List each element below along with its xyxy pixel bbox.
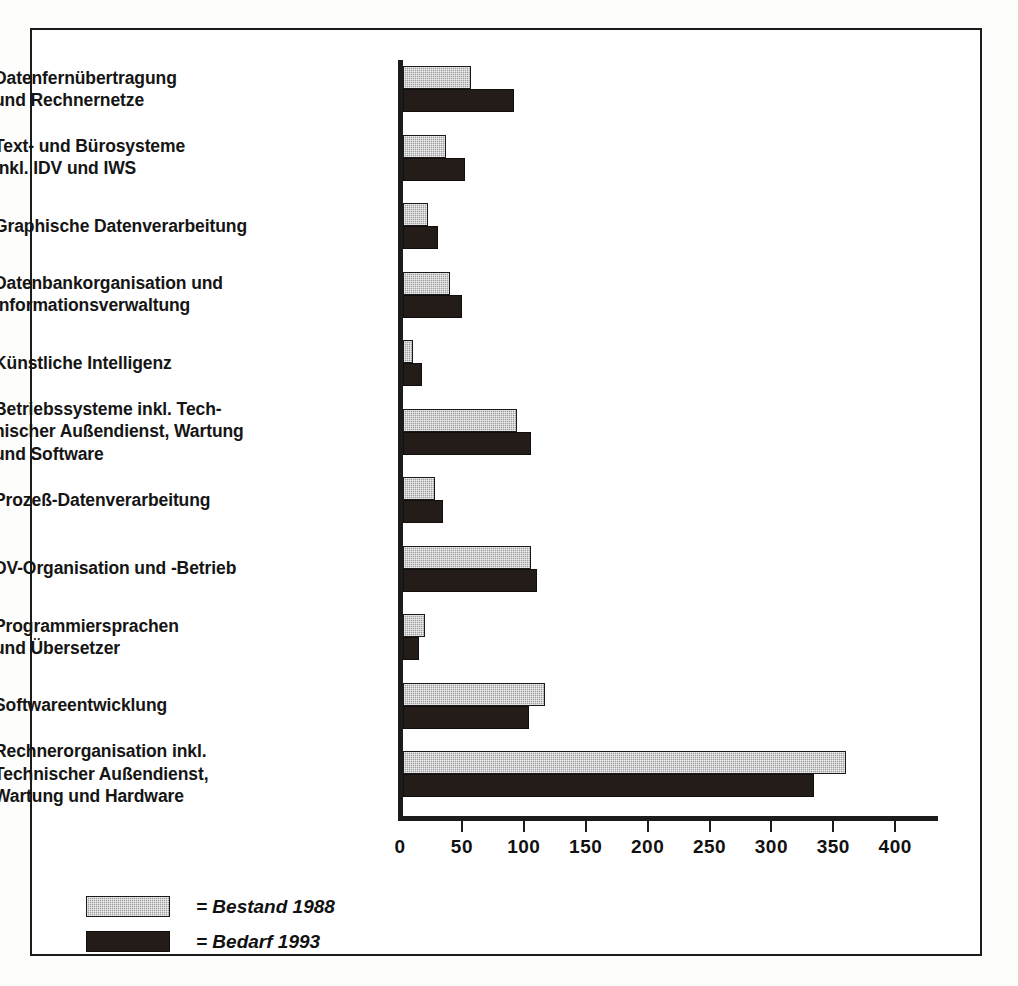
bar-bedarf-1993 xyxy=(403,706,529,729)
legend-label-bedarf: = Bedarf 1993 xyxy=(196,931,320,953)
x-axis-line xyxy=(398,816,938,821)
category-label-line: Programmiersprachen xyxy=(0,615,324,637)
bar-group xyxy=(403,751,943,797)
x-axis-tick xyxy=(585,821,587,832)
x-axis-tick xyxy=(832,821,834,832)
chart-legend: = Bestand 1988 = Bedarf 1993 xyxy=(86,892,335,962)
bar-bestand-1988 xyxy=(403,66,471,89)
bar-bestand-1988 xyxy=(403,409,517,432)
bar-bedarf-1993 xyxy=(403,637,419,660)
legend-swatch-bestand-icon xyxy=(86,896,170,917)
chart-category-row: Datenbankorganisation undInformationsver… xyxy=(32,272,984,320)
legend-item-bestand: = Bestand 1988 xyxy=(86,892,335,921)
category-label-line: Technischer Außendienst, xyxy=(0,763,324,785)
chart-category-row: Rechnerorganisation inkl.Technischer Auß… xyxy=(32,751,984,799)
x-axis-tick-label: 350 xyxy=(817,836,850,858)
bar-bedarf-1993 xyxy=(403,432,531,455)
bar-bestand-1988 xyxy=(403,203,428,226)
x-axis-tick-label: 250 xyxy=(693,836,726,858)
category-label-line: Wartung und Hardware xyxy=(0,785,324,807)
bar-group xyxy=(403,272,943,318)
bar-group xyxy=(403,546,943,592)
chart-category-row: Text- und Bürosystemeinkl. IDV und IWS xyxy=(32,135,984,183)
x-axis-tick-label: 300 xyxy=(755,836,788,858)
legend-swatch-bedarf-icon xyxy=(86,931,170,952)
bar-group xyxy=(403,66,943,112)
category-label: Programmiersprachenund Übersetzer xyxy=(0,615,324,660)
category-label: Rechnerorganisation inkl.Technischer Auß… xyxy=(0,740,324,807)
bar-bestand-1988 xyxy=(403,135,446,158)
chart-category-row: Prozeß-Datenverarbeitung xyxy=(32,477,984,525)
x-axis-tick xyxy=(770,821,772,832)
x-axis-tick xyxy=(894,821,896,832)
category-label-line: und Rechnernetze xyxy=(0,89,324,111)
category-label-line: Text- und Bürosysteme xyxy=(0,135,324,157)
bar-bedarf-1993 xyxy=(403,158,465,181)
category-label-line: Künstliche Intelligenz xyxy=(0,352,324,374)
x-axis-tick-label: 200 xyxy=(631,836,664,858)
bar-bestand-1988 xyxy=(403,614,425,637)
bar-bestand-1988 xyxy=(403,477,435,500)
category-label-line: Prozeß-Datenverarbeitung xyxy=(0,489,324,511)
x-axis-tick-label: 150 xyxy=(569,836,602,858)
bar-bestand-1988 xyxy=(403,546,531,569)
x-axis-tick xyxy=(461,821,463,832)
chart-category-row: Datenfernübertragungund Rechnernetze xyxy=(32,66,984,114)
chart-category-row: Softwareentwicklung xyxy=(32,683,984,731)
category-label-line: Informationsverwaltung xyxy=(0,294,324,316)
bar-bestand-1988 xyxy=(403,751,846,774)
category-label-line: Graphische Datenverarbeitung xyxy=(0,215,324,237)
category-label-line: Softwareentwicklung xyxy=(0,694,324,716)
category-label: Betriebssysteme inkl. Tech-nischer Außen… xyxy=(0,398,324,465)
category-label-line: Datenbankorganisation und xyxy=(0,272,324,294)
x-axis-tick-label: 400 xyxy=(879,836,912,858)
bar-bedarf-1993 xyxy=(403,295,462,318)
category-label-line: DV-Organisation und -Betrieb xyxy=(0,557,324,579)
bar-bedarf-1993 xyxy=(403,500,443,523)
bar-bedarf-1993 xyxy=(403,226,438,249)
category-label: Softwareentwicklung xyxy=(0,694,324,716)
legend-item-bedarf: = Bedarf 1993 xyxy=(86,927,335,956)
bar-bestand-1988 xyxy=(403,340,413,363)
category-label: DV-Organisation und -Betrieb xyxy=(0,557,324,579)
chart-category-row: Künstliche Intelligenz xyxy=(32,340,984,388)
x-axis-tick-label: 50 xyxy=(451,836,473,858)
x-axis-tick xyxy=(709,821,711,832)
x-axis-tick xyxy=(523,821,525,832)
category-label: Prozeß-Datenverarbeitung xyxy=(0,489,324,511)
bar-bestand-1988 xyxy=(403,683,545,706)
chart-category-row: Betriebssysteme inkl. Tech-nischer Außen… xyxy=(32,409,984,457)
bar-bedarf-1993 xyxy=(403,363,422,386)
bar-chart-plot-area: 050100150200250300350400 Datenfernübertr… xyxy=(32,30,984,958)
chart-frame: 050100150200250300350400 Datenfernübertr… xyxy=(30,28,982,956)
bar-group xyxy=(403,203,943,249)
chart-page: 050100150200250300350400 Datenfernübertr… xyxy=(0,0,1018,986)
chart-category-row: Graphische Datenverarbeitung xyxy=(32,203,984,251)
category-label-line: Betriebssysteme inkl. Tech- xyxy=(0,398,324,420)
bar-bedarf-1993 xyxy=(403,774,814,797)
bar-group xyxy=(403,409,943,455)
bar-bedarf-1993 xyxy=(403,569,537,592)
x-axis-tick-label: 100 xyxy=(507,836,540,858)
category-label-line: nischer Außendienst, Wartung xyxy=(0,420,324,442)
chart-category-row: Programmiersprachenund Übersetzer xyxy=(32,614,984,662)
bar-group xyxy=(403,477,943,523)
bar-group xyxy=(403,614,943,660)
category-label: Künstliche Intelligenz xyxy=(0,352,324,374)
category-label: Datenbankorganisation undInformationsver… xyxy=(0,272,324,317)
category-label: Text- und Bürosystemeinkl. IDV und IWS xyxy=(0,135,324,180)
x-axis-tick xyxy=(647,821,649,832)
category-label-line: und Software xyxy=(0,443,324,465)
category-label-line: und Übersetzer xyxy=(0,637,324,659)
x-axis-tick-label: 0 xyxy=(394,836,405,858)
category-label: Graphische Datenverarbeitung xyxy=(0,215,324,237)
category-label-line: Datenfernübertragung xyxy=(0,67,324,89)
category-label: Datenfernübertragungund Rechnernetze xyxy=(0,67,324,112)
chart-category-row: DV-Organisation und -Betrieb xyxy=(32,546,984,594)
bar-bestand-1988 xyxy=(403,272,450,295)
bar-group xyxy=(403,135,943,181)
bar-bedarf-1993 xyxy=(403,89,514,112)
category-label-line: Rechnerorganisation inkl. xyxy=(0,740,324,762)
legend-label-bestand: = Bestand 1988 xyxy=(196,896,335,918)
category-label-line: inkl. IDV und IWS xyxy=(0,157,324,179)
